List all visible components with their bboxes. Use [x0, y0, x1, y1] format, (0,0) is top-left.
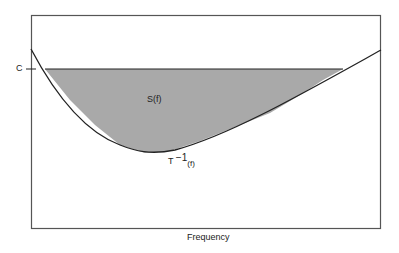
- curve-label-sup: −1: [176, 152, 187, 163]
- threshold-label: C: [16, 63, 23, 73]
- curve-label-sub: (f): [187, 159, 195, 168]
- diagram-canvas: [0, 0, 399, 253]
- x-axis-label: Frequency: [187, 232, 230, 242]
- shaded-area: [45, 69, 343, 153]
- curve-label: T −1(f): [168, 155, 195, 166]
- area-label: S(f): [147, 94, 162, 104]
- curve-label-base: T: [168, 156, 173, 166]
